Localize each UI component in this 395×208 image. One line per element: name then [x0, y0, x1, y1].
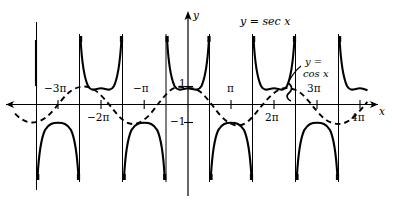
y-tick-label-positive: 1 — [179, 78, 186, 89]
x-tick-label-4pi: 4π — [351, 112, 365, 123]
y-tick-label-negative: −1 — [170, 116, 185, 127]
branch-endcap — [295, 174, 298, 180]
x-tick-label-neg-2pi: −2π — [87, 112, 109, 123]
branch-endcap — [163, 174, 166, 180]
x-tick-label-neg-pi: −π — [133, 83, 149, 94]
secant-graph-figure: y = sec x y x 1 −1 −3π −π π 3π −2π 2π 4π… — [0, 0, 395, 208]
branch-endcap — [207, 36, 210, 42]
branch-endcap — [209, 174, 212, 180]
branch-endcap — [36, 174, 39, 180]
branch-endcap — [293, 36, 296, 42]
branch-endcap — [77, 174, 80, 180]
x-tick-label-2pi: 2π — [265, 112, 279, 123]
x-tick-label-pi: π — [227, 83, 234, 94]
branch-endcap — [79, 36, 82, 42]
branch-endcap — [338, 36, 341, 42]
branch-endcap — [123, 174, 126, 180]
branch-endcap — [166, 36, 169, 42]
y-axis-label: y — [193, 10, 199, 21]
graph-canvas — [0, 0, 395, 208]
x-axis-label: x — [379, 106, 385, 117]
cos-annotation-line1: y = — [305, 57, 322, 67]
x-axis — [6, 101, 378, 108]
chart-title: y = sec x — [240, 16, 290, 27]
branch-endcap — [252, 36, 255, 42]
x-tick-label-neg-3pi: −3π — [44, 83, 66, 94]
y-axis — [185, 11, 192, 196]
branch-endcap — [250, 174, 253, 180]
x-tick-label-3pi: 3π — [307, 83, 321, 94]
branch-endcap — [120, 36, 123, 42]
cos-annotation-line2: cos x — [303, 69, 329, 79]
branch-endcap — [336, 174, 339, 180]
